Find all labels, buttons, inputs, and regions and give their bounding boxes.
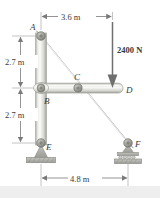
load-label: 2400 N bbox=[117, 45, 143, 55]
roller-wheels bbox=[119, 156, 135, 159]
dimension-left-upper-label: 2.7 m bbox=[5, 57, 25, 67]
joint-label-A: A bbox=[29, 22, 36, 32]
joint-label-C: C bbox=[74, 72, 81, 82]
statics-frame-figure: 2400 N 3.6 m 2.7 m 2.7 m bbox=[0, 0, 160, 198]
dimension-bottom: 4.8 m bbox=[41, 164, 128, 186]
joint-pin-F bbox=[124, 139, 133, 148]
joint-pin-E bbox=[37, 139, 46, 148]
dimension-top-label: 3.6 m bbox=[61, 12, 81, 22]
dimension-top: 3.6 m bbox=[41, 10, 113, 30]
dimension-left-lower-label: 2.7 m bbox=[5, 110, 25, 120]
joint-label-B: B bbox=[44, 96, 50, 106]
joint-pin-A bbox=[37, 32, 46, 41]
dimension-left-lower: 2.7 m bbox=[3, 90, 38, 144]
frame-diagram-canvas: 2400 N 3.6 m 2.7 m 2.7 m bbox=[0, 0, 160, 198]
joint-label-E: E bbox=[45, 142, 52, 152]
dimension-left-upper: 2.7 m bbox=[3, 36, 38, 88]
joint-pin-B bbox=[33, 83, 48, 94]
joint-pin-C bbox=[74, 84, 82, 92]
load-arrow-2400N bbox=[108, 22, 118, 88]
figure-bottom-band bbox=[0, 186, 160, 198]
joint-label-D: D bbox=[125, 85, 133, 95]
joint-label-F: F bbox=[134, 139, 141, 149]
dimension-bottom-label: 4.8 m bbox=[70, 174, 90, 184]
